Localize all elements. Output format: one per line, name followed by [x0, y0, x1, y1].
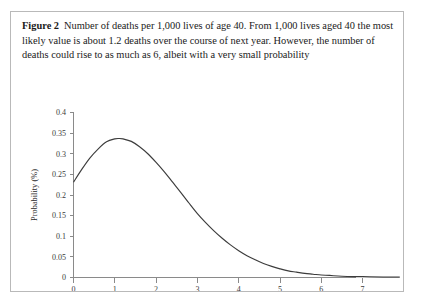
chart-plot-area: 0 0.05 0.1 0.15 0.2 0.25 0.3 0.35 0.4 0	[11, 88, 403, 291]
figure-title-text: Number of deaths per 1,000 lives of age …	[64, 20, 246, 31]
figure-number-label: Figure 2	[22, 20, 59, 31]
y-axis-ticks	[70, 113, 74, 278]
probability-curve	[74, 138, 400, 277]
figure-container: Figure 2Number of deaths per 1,000 lives…	[10, 11, 404, 292]
x-tick-label: 1	[113, 285, 117, 291]
x-tick-label: 5	[278, 285, 282, 291]
x-tick-label: 0	[72, 285, 76, 291]
probability-distribution-chart: 0 0.05 0.1 0.15 0.2 0.25 0.3 0.35 0.4 0	[11, 88, 403, 291]
y-tick-label: 0.25	[52, 170, 66, 179]
y-tick-label: 0.3	[56, 150, 66, 159]
x-tick-label: 3	[195, 285, 199, 291]
x-tick-label: 4	[237, 285, 241, 291]
y-tick-label: 0	[62, 273, 66, 282]
y-axis-title: Probability (%)	[30, 169, 39, 221]
x-tick-label: 6	[319, 285, 323, 291]
y-tick-label: 0.2	[56, 191, 66, 200]
x-axis-ticks	[74, 278, 363, 283]
y-tick-label: 0.1	[56, 232, 66, 241]
y-tick-label: 0.15	[52, 211, 66, 220]
y-tick-label: 0.05	[52, 253, 66, 262]
figure-caption: Figure 2Number of deaths per 1,000 lives…	[22, 19, 394, 63]
x-tick-label: 2	[154, 285, 158, 291]
x-tick-label: 7	[361, 285, 365, 291]
y-tick-label: 0.4	[56, 108, 66, 117]
y-tick-label: 0.35	[52, 129, 66, 138]
